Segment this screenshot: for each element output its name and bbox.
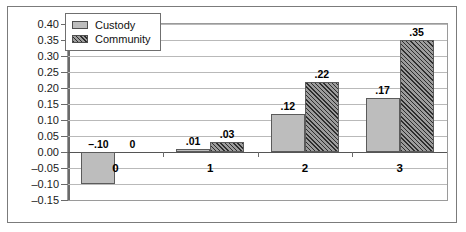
y-axis-tick [61,88,68,89]
y-axis-label: –0.15 [31,194,59,206]
x-axis-category-label: 1 [207,162,213,174]
chart-frame: 0.400.350.300.250.200.150.100.050.00–0.0… [7,6,457,223]
x-axis-tick [258,152,259,157]
y-axis-label: –0.10 [31,178,59,190]
gridline [68,56,447,57]
legend-label-community: Community [95,34,151,45]
y-axis-label: 0.00 [38,146,59,158]
bar-community-2 [305,82,339,152]
x-axis-category-label: 2 [302,162,308,174]
bar-value-label: 0 [129,138,135,150]
y-axis-tick [61,104,68,105]
y-axis-label: 0.30 [38,50,59,62]
legend-item-custody: Custody [72,18,151,32]
gridline [68,168,447,169]
x-axis-tick [163,152,164,157]
x-axis-tick [352,152,353,157]
y-axis-label: 0.10 [38,114,59,126]
legend-swatch-custody-icon [72,21,88,29]
legend-item-community: Community [72,32,151,46]
bar-value-label: .17 [375,84,390,96]
y-axis-tick [61,200,68,201]
y-axis-label: 0.05 [38,130,59,142]
y-axis-label: 0.15 [38,98,59,110]
y-axis-tick [61,72,68,73]
x-axis-category-label: 3 [396,162,402,174]
y-axis-tick [61,120,68,121]
y-axis-label: 0.25 [38,66,59,78]
gridline [68,184,447,185]
x-axis-category-label: 0 [112,162,118,174]
bar-value-label: .03 [220,128,235,140]
gridline [68,72,447,73]
gridline [68,200,447,201]
bar-value-label: .22 [315,68,330,80]
bar-community-1 [210,142,244,152]
y-axis-label: –0.05 [31,162,59,174]
y-axis-label: 0.40 [38,18,59,30]
y-axis-label: 0.35 [38,34,59,46]
y-axis-tick [61,152,68,153]
bar-custody-0 [81,152,115,184]
y-axis-tick [61,184,68,185]
bar-custody-1 [176,149,210,152]
chart-legend: Custody Community [65,13,161,51]
legend-swatch-community-icon [72,35,88,43]
bar-value-label: .12 [281,100,296,112]
bar-value-label: –.10 [88,138,108,150]
bar-value-label: .01 [186,135,201,147]
y-axis-tick [61,168,68,169]
bar-community-3 [400,40,434,152]
bar-custody-2 [271,114,305,152]
y-axis-tick [61,56,68,57]
y-axis-label: 0.20 [38,82,59,94]
bar-value-label: .35 [409,26,424,38]
legend-label-custody: Custody [95,20,135,31]
bar-custody-3 [366,98,400,152]
y-axis-tick [61,136,68,137]
